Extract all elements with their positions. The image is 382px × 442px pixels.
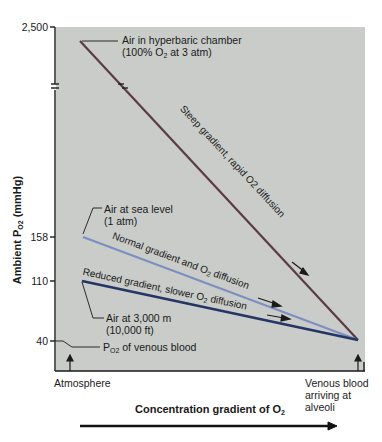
y-tick-158: 158 [0,231,48,243]
concentration-arrow-icon [328,422,337,430]
hyperbaric-callout: Air in hyperbaric chamber (100% O2 at 3 … [122,34,242,62]
gradient-diagram [0,0,382,442]
axis-arrows [67,355,361,371]
x-axis [55,362,365,371]
y-tick-2500: 2,500 [0,21,48,33]
y-tick-110: 110 [0,275,48,287]
venous-po2-callout: PO2 of venous blood [103,341,196,357]
y-tick-40: 40 [0,335,48,347]
callout-leaders [55,41,118,347]
concentration-gradient-caption: Concentration gradient of O2 [135,403,285,416]
atmosphere-arrow-icon [67,355,73,361]
y-axis-label: Ambient PO2 (mmHg) [11,176,24,284]
altitude-callout: Air at 3,000 m (10,000 ft) [106,312,171,336]
concentration-arrow [80,422,337,430]
y-axis [50,27,59,371]
atmosphere-label: Atmosphere [54,377,111,389]
normal-arrow-icon [272,301,281,307]
reduced-arrow-icon [281,315,290,321]
sea-level-callout: Air at sea level (1 atm) [104,203,173,227]
venous-blood-label: Venous blood arriving at alveoli [305,377,369,413]
venous-arrow-icon [355,355,361,361]
